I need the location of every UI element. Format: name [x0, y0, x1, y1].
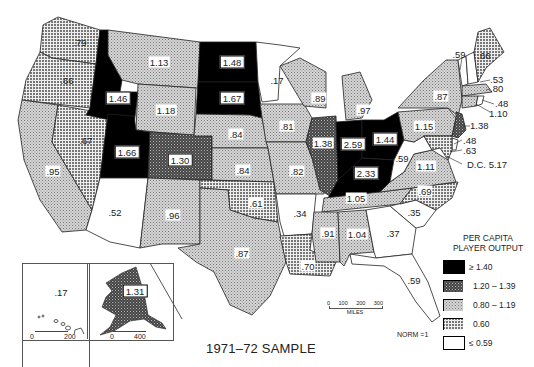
alaska-scale-max: 400	[134, 333, 146, 340]
label-nevada: .67	[79, 135, 92, 146]
hawaii-scale-min: 0	[30, 333, 34, 340]
legend-title-line1: PER CAPITA	[443, 233, 533, 243]
label-indiana: 2.59	[341, 138, 366, 151]
label-kansas: .84	[235, 165, 250, 176]
label-alabama: 1.04	[347, 229, 368, 240]
scale-tick-200: 200	[356, 300, 365, 306]
scale-tick-0: 0	[327, 300, 330, 306]
label-georgia: .37	[386, 228, 399, 239]
legend-item-low: 0.60	[443, 314, 533, 333]
label-utah: 1.66	[115, 146, 140, 159]
legend-label: ≥ 1.40	[469, 262, 493, 272]
swatch-grid	[443, 318, 463, 330]
label-colorado: 1.30	[168, 154, 193, 167]
label-oregon: .66	[60, 75, 73, 86]
legend: PER CAPITA PLAYER OUTPUT ≥ 1.40 1.20 – 1…	[443, 233, 533, 352]
label-florida: .59	[407, 275, 420, 286]
label-new-jersey: 1.38	[470, 120, 489, 131]
label-west-virginia: .59	[395, 153, 408, 164]
state-delaware	[452, 138, 458, 150]
legend-item-mid: 0.80 – 1.19	[443, 295, 533, 314]
legend-label: 0.60	[473, 319, 490, 329]
label-missouri: .82	[289, 166, 304, 177]
legend-label: 1.20 – 1.39	[473, 281, 516, 291]
legend-title-line2: PLAYER OUTPUT	[443, 243, 533, 253]
label-louisiana: .70	[300, 261, 315, 272]
scale-tick-300: 300	[374, 300, 383, 306]
scale-tick-100: 100	[339, 300, 348, 306]
alaska-scale-min: 0	[110, 333, 114, 340]
label-south-carolina: .35	[407, 207, 420, 218]
label-kentucky: 2.33	[354, 167, 379, 180]
label-tennessee: 1.05	[346, 193, 367, 204]
hawaii-scale-bar	[35, 331, 68, 332]
label-new-york: .87	[433, 91, 448, 102]
hawaii-scale-max: 200	[64, 333, 76, 340]
norm-note: NORM =1	[397, 331, 428, 338]
legend-item-lowest: ≤ 0.59	[443, 333, 533, 352]
alaska-scale-bar	[113, 331, 146, 332]
swatch-light	[443, 299, 463, 311]
swatch-dark	[443, 280, 463, 292]
label-texas: .87	[234, 248, 249, 259]
label-minnesota: .17	[270, 75, 283, 86]
label-ohio: 1.44	[373, 133, 398, 146]
miles-scale: 0 100 200 300 MILES	[327, 300, 387, 315]
label-new-mexico: .96	[165, 210, 180, 221]
label-north-dakota: 1.48	[220, 56, 245, 69]
label-california: .95	[45, 166, 60, 177]
label-pennsylvania: 1.15	[414, 121, 435, 132]
label-michigan: .97	[356, 105, 371, 116]
swatch-black	[443, 260, 465, 274]
label-north-carolina: .69	[417, 186, 432, 197]
label-south-dakota: 1.67	[220, 92, 245, 105]
label-massachusetts: .80	[490, 83, 503, 94]
legend-item-high: ≥ 1.40	[443, 257, 533, 276]
state-new-york	[398, 60, 462, 116]
state-massachusetts	[462, 84, 492, 96]
label-alaska: 1.31	[123, 285, 148, 298]
label-montana: 1.13	[149, 57, 170, 68]
legend-label: ≤ 0.59	[469, 338, 493, 348]
swatch-white	[443, 336, 465, 350]
label-wisconsin: .89	[311, 93, 326, 104]
label-arizona: .52	[108, 207, 121, 218]
label-washington: .79	[73, 37, 86, 48]
label-illinois: 1.38	[313, 138, 334, 149]
label-connecticut: 1.10	[489, 108, 508, 119]
label-dc: D.C. 5.17	[467, 159, 507, 170]
label-mississippi: .91	[320, 228, 335, 239]
label-wyoming: 1.18	[156, 105, 177, 116]
legend-item-upper: 1.20 – 1.39	[443, 276, 533, 295]
state-connecticut	[462, 96, 478, 108]
label-oklahoma: .61	[248, 198, 263, 209]
alaska-map	[88, 263, 183, 339]
label-maine: .66	[477, 50, 490, 61]
legend-label: 0.80 – 1.19	[473, 300, 516, 310]
scale-unit: MILES	[327, 309, 383, 315]
label-nebraska: .84	[228, 129, 243, 140]
label-maryland: .63	[463, 145, 476, 156]
map-title: 1971–72 SAMPLE	[206, 341, 316, 356]
label-idaho: 1.46	[106, 92, 131, 105]
label-virginia: 1.11	[416, 161, 436, 172]
label-vermont: .59	[452, 49, 465, 60]
label-iowa: .81	[279, 121, 294, 132]
label-arkansas: .34	[293, 208, 306, 219]
